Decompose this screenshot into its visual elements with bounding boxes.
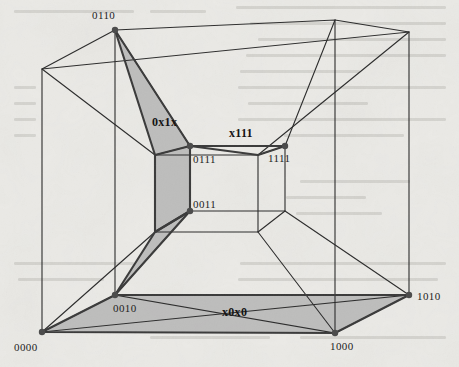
paper-grain-overlay [0,0,459,367]
tesseract-figure: 0110 0111 1111 0011 0010 1000 1010 0000 … [0,0,459,367]
tesseract-svg: 0110 0111 1111 0011 0010 1000 1010 0000 … [0,0,459,367]
